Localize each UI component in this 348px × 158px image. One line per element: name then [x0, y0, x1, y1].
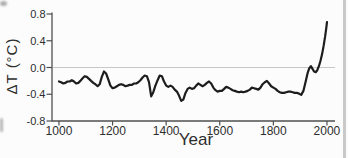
- y-axis-title: ΔT (°C): [3, 38, 20, 95]
- y-tick-label: 0.0: [30, 62, 45, 74]
- x-tick-label: 2000: [314, 124, 341, 138]
- x-tick-label: 1000: [46, 124, 73, 138]
- y-tick-label: 0.4: [30, 35, 45, 47]
- x-tick-label: 1400: [153, 124, 180, 138]
- x-tick-label: 1800: [260, 124, 287, 138]
- x-tick-label: 1200: [99, 124, 126, 138]
- chart-canvas: 0.80.40.0-0.4-0.810001200140016001800200…: [0, 0, 348, 158]
- y-tick-label: -0.8: [27, 115, 46, 127]
- y-tick-label: -0.4: [27, 88, 46, 100]
- temperature-anomaly-figure: 0.80.40.0-0.4-0.810001200140016001800200…: [0, 0, 348, 158]
- temperature-series-line: [59, 22, 327, 101]
- x-axis-title: Year: [179, 130, 213, 150]
- y-tick-label: 0.8: [30, 8, 45, 20]
